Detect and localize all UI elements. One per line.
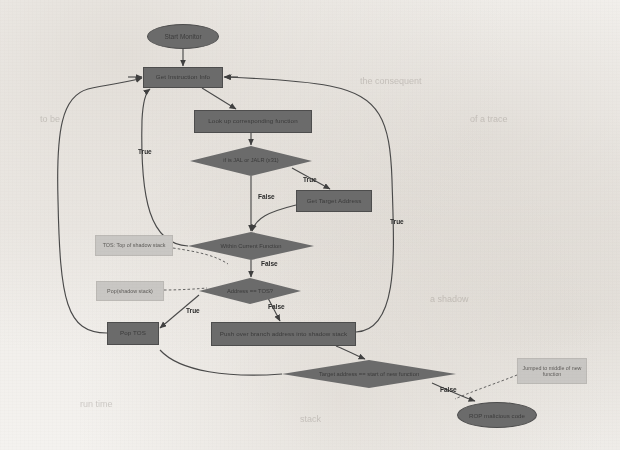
- note-jumped-to-middle: Jumped to middle of new function: [517, 358, 587, 384]
- note-tos-definition: TOS: Top of shadow stack: [95, 235, 173, 256]
- edge-note-pop-leader: [164, 288, 207, 290]
- edge-label-true-tos: True: [186, 307, 200, 314]
- node-label: if is JAL or JALR (x31): [223, 158, 278, 164]
- note-label: Jumped to middle of new function: [521, 365, 583, 377]
- edge-label-false-target: False: [440, 386, 457, 393]
- edge-label-false-tos: False: [268, 303, 285, 310]
- node-start-monitor[interactable]: Start Monitor: [147, 24, 219, 49]
- note-label: Pop(shadow stack): [107, 288, 153, 294]
- node-label: Push over branch address into shadow sta…: [220, 331, 347, 338]
- flowchart-canvas: the consequent of a trace to be a shadow…: [0, 0, 620, 450]
- edge-getinfo-to-lookup: [202, 88, 236, 109]
- node-label: Get Instruction Info: [156, 74, 210, 81]
- node-get-instruction-info[interactable]: Get Instruction Info: [143, 67, 223, 88]
- node-label: Pop TOS: [120, 330, 146, 337]
- edge-label-false-isjump: False: [258, 193, 275, 200]
- node-pop-tos[interactable]: Pop TOS: [107, 322, 159, 345]
- edge-label-true-right: True: [390, 218, 404, 225]
- node-label: Look up corresponding function: [208, 118, 297, 125]
- node-get-target-address[interactable]: Get Target Address: [296, 190, 372, 212]
- node-rop-malicious-code[interactable]: ROP malicious code: [457, 402, 537, 428]
- note-label: TOS: Top of shadow stack: [103, 242, 166, 248]
- edge-push-to-targetstart: [336, 346, 365, 359]
- node-label: Get Target Address: [307, 198, 362, 205]
- edge-within-true-to-getinfo: [142, 89, 188, 246]
- node-label: Target address == start of new function: [319, 371, 419, 377]
- node-label: Address == TOS?: [227, 288, 273, 294]
- edge-gettarget-to-within: [252, 205, 296, 231]
- edge-targetstart-true-loop: [160, 350, 282, 375]
- node-push-over-branch-address[interactable]: Push over branch address into shadow sta…: [211, 322, 356, 346]
- node-label: Start Monitor: [164, 33, 201, 40]
- node-label: ROP malicious code: [469, 412, 525, 419]
- node-label: Within Current Function: [221, 243, 282, 249]
- edge-label-false-within: False: [261, 260, 278, 267]
- note-pop-shadow-stack: Pop(shadow stack): [96, 281, 164, 301]
- edge-label-true-target: True: [303, 176, 317, 183]
- node-look-up-corresponding-function[interactable]: Look up corresponding function: [194, 110, 312, 133]
- edge-label-true-left: True: [138, 148, 152, 155]
- edge-note-middle-leader: [455, 375, 517, 399]
